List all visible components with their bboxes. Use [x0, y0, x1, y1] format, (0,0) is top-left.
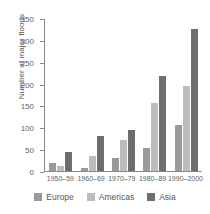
bar-group — [171, 19, 202, 171]
x-axis-line — [44, 171, 202, 172]
bar-group — [76, 19, 107, 171]
bar — [128, 130, 135, 171]
flood-bar-chart: Number of major floods 05010015020025030… — [0, 0, 210, 214]
y-tick-label: 100 — [21, 124, 34, 133]
x-tick-label: 1970–79 — [106, 175, 137, 182]
y-tick-mark: 0 — [40, 172, 44, 173]
y-tick-label: 350 — [21, 15, 34, 24]
bar-group — [45, 19, 76, 171]
x-tick-label: 1980–89 — [137, 175, 168, 182]
y-tick-mark: 50 — [40, 150, 44, 151]
bar — [57, 166, 64, 171]
bar — [49, 163, 56, 171]
bar — [97, 136, 104, 171]
y-tick-mark: 350 — [40, 19, 44, 20]
bar — [81, 168, 88, 171]
bar-group — [139, 19, 170, 171]
bar — [191, 29, 198, 171]
y-tick-mark: 300 — [40, 41, 44, 42]
x-tick-label: 1990–2000 — [168, 175, 203, 182]
legend-item: Americas — [87, 192, 134, 202]
legend-label: Europe — [46, 192, 73, 202]
y-tick-mark: 100 — [40, 128, 44, 129]
x-tick-label: 1950–59 — [45, 175, 76, 182]
y-tick-mark: 250 — [40, 63, 44, 64]
y-tick-label: 50 — [25, 146, 34, 155]
bar — [159, 76, 166, 171]
bar-groups — [45, 19, 202, 171]
bar — [183, 86, 190, 171]
bar — [65, 152, 72, 171]
legend-item: Asia — [147, 192, 176, 202]
legend-label: Asia — [159, 192, 176, 202]
bar — [151, 103, 158, 171]
chart-legend: EuropeAmericasAsia — [0, 192, 210, 202]
bar — [112, 158, 119, 171]
legend-swatch-icon — [147, 193, 155, 201]
bar — [175, 125, 182, 171]
y-tick-label: 250 — [21, 58, 34, 67]
y-tick-label: 0 — [30, 168, 34, 177]
y-tick-mark: 200 — [40, 85, 44, 86]
plot-area: 050100150200250300350 — [44, 19, 202, 172]
bar — [89, 156, 96, 171]
y-tick-mark: 150 — [40, 106, 44, 107]
y-tick-label: 200 — [21, 80, 34, 89]
legend-label: Americas — [99, 192, 134, 202]
bar — [143, 148, 150, 171]
x-tick-label: 1960–69 — [76, 175, 107, 182]
legend-swatch-icon — [87, 193, 95, 201]
legend-swatch-icon — [34, 193, 42, 201]
y-tick-label: 150 — [21, 102, 34, 111]
x-axis-tick-labels: 1950–591960–691970–791980–891990–2000 — [45, 175, 203, 182]
bar-group — [108, 19, 139, 171]
bar — [120, 140, 127, 171]
y-tick-label: 300 — [21, 36, 34, 45]
legend-item: Europe — [34, 192, 73, 202]
